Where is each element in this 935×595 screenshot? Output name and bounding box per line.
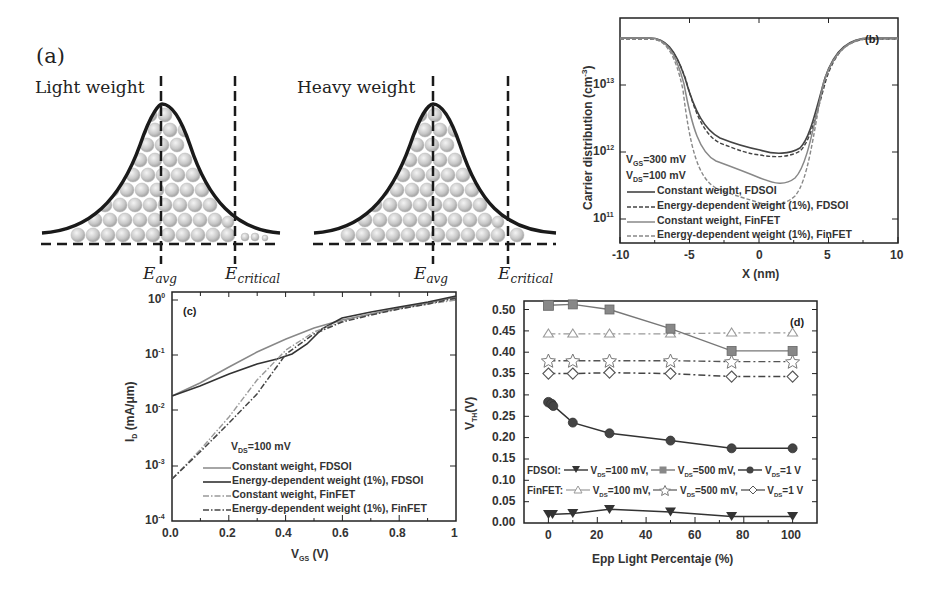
up-triangle-marker-icon bbox=[566, 486, 590, 495]
x-tick-label: 100 bbox=[781, 528, 801, 542]
y-tick-label: 1013 bbox=[593, 77, 614, 91]
legend-swatch-solid-light bbox=[203, 466, 231, 470]
e-avg-label-heavy: Eavg bbox=[414, 263, 448, 286]
square-marker-icon bbox=[651, 466, 675, 475]
x-axis-label: VGS (V) bbox=[291, 547, 328, 562]
x-tick-label: 1 bbox=[451, 526, 458, 540]
e-avg-label-light: Eavg bbox=[143, 263, 177, 286]
light-weight-distribution bbox=[0, 0, 300, 270]
legend-item: Energy-dependent weight (1%), FDSOI bbox=[657, 199, 848, 211]
y-tick-label: 0.25 bbox=[492, 409, 515, 423]
x-tick-label: -5 bbox=[684, 248, 695, 262]
circle-marker-icon bbox=[738, 466, 762, 475]
y-tick-label: 0.20 bbox=[492, 430, 515, 444]
legend-swatch-solid-dark bbox=[627, 190, 655, 194]
x-tick-label: 0.8 bbox=[389, 526, 406, 540]
y-tick-label: 0.30 bbox=[492, 387, 515, 401]
legend-item: Energy-dependent weight (1%), FinFET bbox=[232, 502, 427, 514]
y-tick-label: 0.05 bbox=[492, 494, 515, 508]
legend-item: Constant weight, FDSOI bbox=[232, 460, 352, 472]
y-tick-label: 0.35 bbox=[492, 366, 515, 380]
vds-annotation: VDS=100 mV bbox=[231, 440, 291, 454]
x-axis-label: Epp Light Percentaje (%) bbox=[592, 552, 733, 566]
legend-swatch-dashed-dark bbox=[627, 205, 655, 209]
y-tick-label: 10-1 bbox=[145, 347, 165, 361]
diamond-marker-icon bbox=[741, 486, 765, 495]
y-tick-label: 1012 bbox=[593, 144, 614, 158]
x-tick-label: 0 bbox=[545, 528, 552, 542]
legend-row-finfet: FinFET: VDS=100 mV, VDS=500 mV, VDS=1 V bbox=[527, 484, 803, 498]
y-tick-label: 10-3 bbox=[145, 458, 165, 472]
legend-item: Constant weight, FinFET bbox=[232, 488, 355, 500]
x-tick-label: 40 bbox=[639, 528, 652, 542]
y-tick-label: 10-2 bbox=[145, 402, 165, 416]
y-axis-label: ID (mA/μm) bbox=[123, 382, 138, 442]
y-tick-label: 10-4 bbox=[145, 513, 165, 527]
e-critical-label-light: Ecritical bbox=[225, 263, 280, 286]
x-tick-label: 0.0 bbox=[162, 526, 179, 540]
y-axis-label: VTH(V) bbox=[463, 397, 478, 430]
y-tick-label: 0.50 bbox=[492, 303, 515, 317]
legend-swatch-dashdot-light bbox=[203, 494, 231, 498]
legend-item: Constant weight, FinFET bbox=[657, 214, 780, 226]
x-axis-label: X (nm) bbox=[742, 267, 779, 281]
legend-swatch-solid-light bbox=[627, 220, 655, 224]
vgs-annotation: VGS=300 mV bbox=[626, 153, 686, 167]
x-tick-label: -10 bbox=[612, 248, 629, 262]
legend-item: Energy-dependent weight (1%), FDSOI bbox=[232, 474, 423, 486]
x-tick-label: 0 bbox=[756, 248, 763, 262]
y-tick-label: 1011 bbox=[593, 211, 614, 225]
panel-c-label: (c) bbox=[183, 305, 196, 317]
panel-c-plot bbox=[172, 292, 456, 521]
legend-swatch-solid-dark bbox=[203, 480, 231, 484]
legend-item: Energy-dependent weight (1%), FinFET bbox=[657, 228, 852, 240]
legend-swatch-dashdot-dark bbox=[203, 508, 231, 512]
x-tick-label: 10 bbox=[890, 248, 903, 262]
y-tick-label: 100 bbox=[148, 292, 165, 306]
x-tick-label: 0.2 bbox=[219, 526, 236, 540]
y-tick-label: 0.15 bbox=[492, 451, 515, 465]
panel-b-label: (b) bbox=[865, 33, 879, 45]
x-tick-label: 20 bbox=[590, 528, 603, 542]
x-tick-label: 0.4 bbox=[275, 526, 292, 540]
particles-icon bbox=[71, 108, 268, 242]
heavy-weight-distribution bbox=[262, 0, 562, 270]
legend-item: Constant weight, FDSOI bbox=[657, 184, 777, 196]
legend-swatch-dashed-light bbox=[627, 234, 655, 238]
y-tick-label: 0.10 bbox=[492, 473, 515, 487]
x-tick-label: 60 bbox=[688, 528, 701, 542]
y-tick-label: 0.40 bbox=[492, 345, 515, 359]
y-tick-label: 0.45 bbox=[492, 324, 515, 338]
vds-annotation: VDS=100 mV bbox=[626, 169, 686, 183]
legend-row-fdsoi: FDSOI: VDS=100 mV, VDS=500 mV, VDS=1 V bbox=[527, 465, 801, 478]
star-marker-icon bbox=[653, 485, 677, 495]
down-triangle-marker-icon bbox=[564, 466, 588, 475]
e-critical-label-heavy: Ecritical bbox=[498, 263, 553, 286]
x-tick-label: 5 bbox=[824, 248, 831, 262]
x-tick-label: 80 bbox=[736, 528, 749, 542]
y-axis-label: Carrier distribution (cm-3) bbox=[580, 66, 595, 210]
panel-d-label: (d) bbox=[790, 316, 804, 328]
y-tick-label: 0.00 bbox=[492, 515, 515, 529]
x-tick-label: 0.6 bbox=[332, 526, 349, 540]
